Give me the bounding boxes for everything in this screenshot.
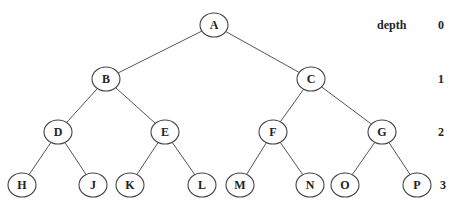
node-D: D bbox=[44, 120, 72, 144]
edge-B-E bbox=[116, 88, 156, 124]
node-label: E bbox=[161, 125, 169, 139]
node-label: P bbox=[413, 178, 420, 192]
node-label: C bbox=[307, 72, 316, 86]
node-G: G bbox=[368, 120, 396, 144]
node-label: O bbox=[340, 178, 349, 192]
node-M: M bbox=[226, 173, 254, 197]
node-label: F bbox=[269, 125, 276, 139]
node-A: A bbox=[200, 13, 228, 37]
depth-header: depth bbox=[377, 18, 407, 32]
node-N: N bbox=[296, 173, 324, 197]
node-O: O bbox=[331, 173, 359, 197]
edge-G-P bbox=[389, 142, 410, 174]
edge-E-L bbox=[172, 142, 195, 174]
node-label: N bbox=[306, 178, 315, 192]
edge-F-N bbox=[280, 142, 303, 174]
depth-level-3: 3 bbox=[440, 178, 446, 192]
node-label: D bbox=[54, 125, 63, 139]
node-label: L bbox=[198, 178, 206, 192]
tree-diagram: ABCDEFGHJKLMNOP depth 0 1 2 3 bbox=[0, 0, 456, 209]
node-J: J bbox=[79, 173, 107, 197]
node-K: K bbox=[116, 173, 144, 197]
depth-legend: depth 0 1 2 3 bbox=[377, 18, 446, 192]
depth-level-1: 1 bbox=[438, 72, 444, 86]
edge-E-K bbox=[137, 142, 158, 174]
edge-A-C bbox=[226, 32, 300, 73]
node-C: C bbox=[297, 67, 325, 91]
edge-D-J bbox=[65, 142, 86, 174]
node-B: B bbox=[92, 67, 120, 91]
node-L: L bbox=[188, 173, 216, 197]
node-label: K bbox=[125, 178, 135, 192]
node-label: H bbox=[17, 178, 27, 192]
edge-B-D bbox=[67, 88, 98, 122]
edge-C-G bbox=[322, 87, 372, 124]
tree-nodes: ABCDEFGHJKLMNOP bbox=[8, 13, 431, 197]
edge-C-F bbox=[280, 89, 303, 122]
edge-F-M bbox=[247, 143, 267, 175]
node-label: A bbox=[210, 18, 219, 32]
depth-level-0: 0 bbox=[438, 18, 444, 32]
node-P: P bbox=[403, 173, 431, 197]
node-label: G bbox=[377, 125, 386, 139]
node-label: B bbox=[102, 72, 110, 86]
node-E: E bbox=[151, 120, 179, 144]
edge-D-H bbox=[29, 142, 51, 174]
edge-A-B bbox=[118, 31, 202, 73]
node-label: M bbox=[234, 178, 245, 192]
node-F: F bbox=[259, 120, 287, 144]
node-H: H bbox=[8, 173, 36, 197]
tree-edges bbox=[29, 31, 410, 175]
node-label: J bbox=[90, 178, 96, 192]
depth-level-2: 2 bbox=[438, 125, 444, 139]
edge-G-O bbox=[352, 142, 375, 174]
